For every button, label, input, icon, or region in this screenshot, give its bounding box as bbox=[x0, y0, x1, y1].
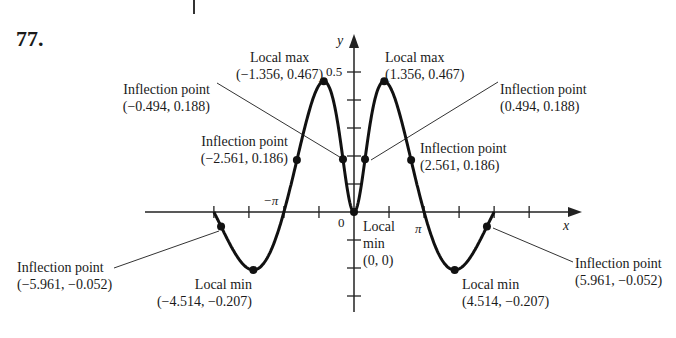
annotation-local-max-right: Local max (1.356, 0.467) bbox=[385, 49, 464, 83]
annotation-local-max-left: Local max (−1.356, 0.467) bbox=[236, 49, 323, 83]
annotation-inflection-upper-right: Inflection point (0.494, 0.188) bbox=[500, 81, 587, 115]
key-point-dot bbox=[361, 155, 369, 163]
annotation-local-min-origin: Local min (0, 0) bbox=[363, 218, 395, 269]
key-point-dot bbox=[350, 208, 358, 216]
key-point-dot bbox=[407, 156, 415, 164]
annotation-inflection-mid-right: Inflection point (2.561, 0.186) bbox=[420, 140, 507, 174]
x-tick-label-pi: π bbox=[415, 221, 422, 237]
key-point-dot bbox=[249, 266, 257, 274]
annotation-local-min-left: Local min (−4.514, −0.207) bbox=[136, 276, 252, 310]
annotation-local-min-right: Local min (4.514, −0.207) bbox=[462, 276, 549, 310]
x-axis-label: x bbox=[563, 218, 569, 234]
key-point-dot bbox=[217, 223, 225, 231]
key-point-dot bbox=[293, 156, 301, 164]
y-axis-label: y bbox=[337, 33, 343, 49]
x-axis-arrow-icon bbox=[568, 207, 582, 217]
origin-label: 0 bbox=[338, 215, 345, 231]
key-point-dot bbox=[451, 266, 459, 274]
x-tick-label-neg-pi: −π bbox=[263, 193, 278, 209]
key-point-dot bbox=[483, 223, 491, 231]
key-point-dot bbox=[339, 155, 347, 163]
annotation-inflection-low-right: Inflection point (5.961, −0.052) bbox=[575, 255, 662, 289]
y-tick-label-0-5: 0.5 bbox=[326, 64, 342, 80]
annotation-inflection-mid-left: Inflection point (−2.561, 0.186) bbox=[186, 133, 288, 167]
annotation-inflection-low-left: Inflection point (−5.961, −0.052) bbox=[17, 259, 112, 293]
annotation-inflection-upper-left: Inflection point (−0.494, 0.188) bbox=[108, 81, 210, 115]
y-axis-arrow-icon bbox=[349, 34, 359, 48]
